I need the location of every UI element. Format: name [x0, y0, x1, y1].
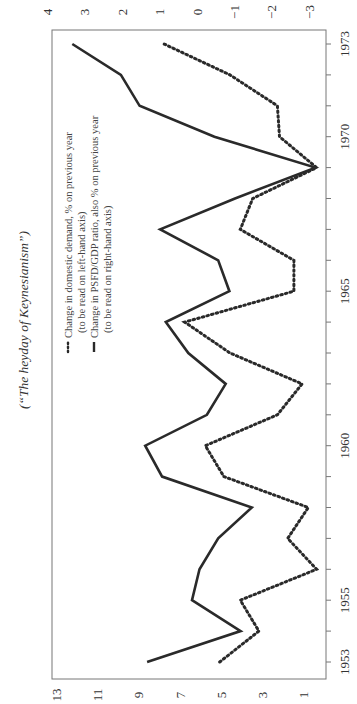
year-label: 1953 [337, 649, 352, 675]
right-axis-label: 0 [190, 9, 205, 16]
x-axis-years: 195319551960196519701973 [326, 31, 352, 675]
year-label: 1960 [337, 433, 352, 459]
legend-label: Change in PSFD/GDP ratio, also % on prev… [89, 115, 100, 338]
right-axis-label: 3 [77, 9, 92, 16]
right-axis-label: 4 [40, 8, 55, 15]
rotated-line-chart: (“The heyday of Keynesianism”) 195319551… [0, 0, 357, 704]
right-axis-label: 1 [152, 9, 167, 16]
legend-label: Change in domestic demand, % on previous… [63, 132, 74, 338]
left-axis-label: 9 [131, 692, 146, 699]
left-axis-label: 13 [49, 689, 64, 702]
right-axis-label: −3 [302, 5, 317, 19]
legend-sublabel: (to be read on right-hand axis) [102, 205, 114, 333]
right-axis-ticks: −3−2−101234 [40, 5, 317, 19]
right-axis-label: −2 [264, 5, 279, 19]
year-label: 1973 [337, 31, 352, 57]
left-axis-label: 1 [296, 692, 311, 699]
year-label: 1955 [337, 587, 352, 613]
left-axis-ticks: 135791113 [49, 689, 311, 702]
legend-sublabel: (to be read on left-hand axis) [76, 211, 88, 333]
left-axis-label: 3 [255, 692, 270, 699]
left-axis-label: 7 [173, 691, 188, 698]
title-text: (“The heyday of Keynesianism”) [16, 230, 31, 409]
legend: Change in domestic demand, % on previous… [63, 115, 114, 352]
year-label: 1965 [337, 278, 352, 304]
left-axis-label: 11 [90, 689, 105, 702]
right-axis-label: −1 [227, 5, 242, 19]
year-label: 1970 [337, 124, 352, 150]
right-axis-label: 2 [115, 9, 130, 16]
chart-title: (“The heyday of Keynesianism”) [16, 230, 31, 409]
left-axis-label: 5 [214, 692, 229, 699]
